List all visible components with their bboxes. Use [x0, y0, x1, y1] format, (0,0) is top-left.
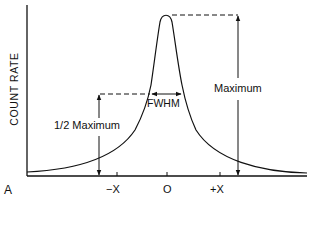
maximum-label: Maximum	[213, 83, 263, 94]
tick-label-plus-x: +X	[210, 184, 224, 195]
y-axis-label: COUNT RATE	[8, 49, 20, 129]
tick-label-zero: O	[163, 184, 172, 195]
half-maximum-label: 1/2 Maximum	[53, 120, 121, 131]
fwhm-label: FWHM	[147, 98, 180, 109]
panel-label: A	[4, 184, 12, 196]
tick-label-minus-x: −X	[106, 184, 120, 195]
